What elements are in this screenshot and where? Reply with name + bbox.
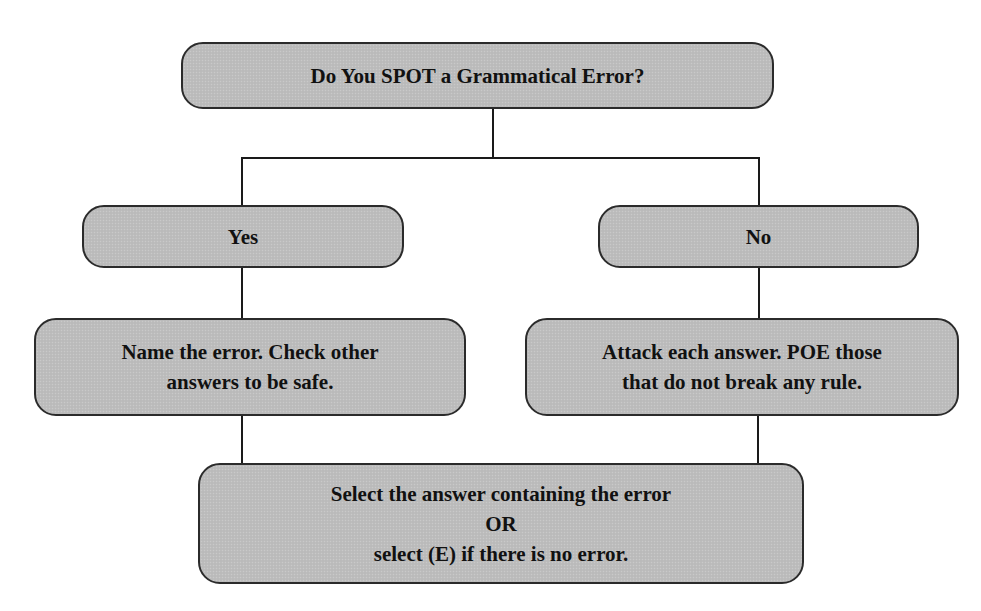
connector-no-to-action xyxy=(758,267,760,319)
final-node: Select the answer containing the error O… xyxy=(198,463,804,584)
question-text: Do You SPOT a Grammatical Error? xyxy=(311,61,645,91)
no-text: No xyxy=(746,222,772,252)
connector-no-action-to-final xyxy=(757,415,759,464)
yes-node: Yes xyxy=(82,205,404,268)
final-line-or: OR xyxy=(485,509,517,539)
final-line-3: select (E) if there is no error. xyxy=(374,539,628,569)
yes-text: Yes xyxy=(228,222,258,252)
connector-yes-to-action xyxy=(241,267,243,319)
connector-question-down xyxy=(492,108,494,159)
connector-yes-action-to-final xyxy=(241,415,243,464)
no-action-line-1: Attack each answer. POE those xyxy=(602,337,882,367)
connector-horizontal-branch xyxy=(241,157,760,159)
connector-to-no xyxy=(758,157,760,207)
connector-to-yes xyxy=(241,157,243,207)
yes-action-node: Name the error. Check other answers to b… xyxy=(34,318,466,416)
final-line-1: Select the answer containing the error xyxy=(331,479,671,509)
question-node: Do You SPOT a Grammatical Error? xyxy=(181,42,774,109)
yes-action-line-1: Name the error. Check other xyxy=(121,337,378,367)
yes-action-line-2: answers to be safe. xyxy=(167,367,334,397)
no-action-line-2: that do not break any rule. xyxy=(622,367,862,397)
no-action-node: Attack each answer. POE those that do no… xyxy=(525,318,959,416)
no-node: No xyxy=(598,205,919,268)
